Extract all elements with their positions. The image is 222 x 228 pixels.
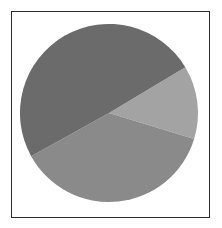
figure-root — [0, 0, 222, 228]
pie-chart — [0, 0, 222, 228]
pie-slice-group — [20, 24, 198, 202]
